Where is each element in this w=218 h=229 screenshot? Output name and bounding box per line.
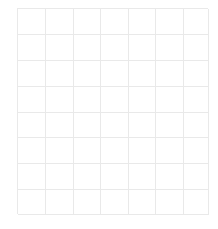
- table-cell[interactable]: [74, 164, 101, 190]
- table-row: [18, 87, 209, 113]
- table-cell[interactable]: [46, 113, 74, 138]
- table-cell[interactable]: [18, 61, 46, 87]
- table-cell[interactable]: [156, 138, 184, 164]
- table-cell[interactable]: [18, 138, 46, 164]
- table-cell[interactable]: [101, 190, 129, 215]
- table-cell[interactable]: [46, 61, 74, 87]
- table-cell[interactable]: [46, 190, 74, 215]
- table-cell[interactable]: [74, 113, 101, 138]
- table-cell[interactable]: [101, 164, 129, 190]
- table-row: [18, 9, 209, 35]
- table-cell[interactable]: [156, 35, 184, 61]
- table-cell[interactable]: [156, 9, 184, 35]
- table-row: [18, 164, 209, 190]
- table-row: [18, 61, 209, 87]
- table-cell[interactable]: [184, 113, 209, 138]
- table-cell[interactable]: [18, 9, 46, 35]
- table-cell[interactable]: [101, 113, 129, 138]
- table-cell[interactable]: [18, 113, 46, 138]
- table-cell[interactable]: [46, 164, 74, 190]
- table-cell[interactable]: [184, 164, 209, 190]
- table-cell[interactable]: [101, 9, 129, 35]
- table-cell[interactable]: [101, 35, 129, 61]
- table-cell[interactable]: [184, 9, 209, 35]
- table-cell[interactable]: [74, 87, 101, 113]
- table-cell[interactable]: [101, 61, 129, 87]
- empty-grid-table[interactable]: [17, 8, 208, 214]
- table-cell[interactable]: [129, 138, 156, 164]
- table-cell[interactable]: [129, 61, 156, 87]
- table-cell[interactable]: [74, 138, 101, 164]
- table-cell[interactable]: [129, 164, 156, 190]
- table-row: [18, 35, 209, 61]
- table-cell[interactable]: [18, 35, 46, 61]
- table-cell[interactable]: [184, 138, 209, 164]
- page-canvas: [0, 0, 218, 229]
- table-cell[interactable]: [156, 87, 184, 113]
- table-cell[interactable]: [46, 9, 74, 35]
- table-cell[interactable]: [74, 190, 101, 215]
- table-cell[interactable]: [74, 35, 101, 61]
- table-cell[interactable]: [46, 138, 74, 164]
- table-cell[interactable]: [184, 87, 209, 113]
- table-cell[interactable]: [129, 113, 156, 138]
- table-cell[interactable]: [46, 35, 74, 61]
- table-cell[interactable]: [18, 164, 46, 190]
- table-cell[interactable]: [74, 9, 101, 35]
- table-cell[interactable]: [129, 190, 156, 215]
- table-cell[interactable]: [46, 87, 74, 113]
- table-cell[interactable]: [156, 113, 184, 138]
- table-cell[interactable]: [184, 190, 209, 215]
- table-cell[interactable]: [129, 35, 156, 61]
- table-cell[interactable]: [129, 9, 156, 35]
- table-row: [18, 138, 209, 164]
- table-cell[interactable]: [74, 61, 101, 87]
- table-row: [18, 113, 209, 138]
- table-cell[interactable]: [18, 87, 46, 113]
- table-cell[interactable]: [184, 35, 209, 61]
- table-cell[interactable]: [184, 61, 209, 87]
- table-cell[interactable]: [101, 138, 129, 164]
- table-row: [18, 190, 209, 215]
- table-cell[interactable]: [101, 87, 129, 113]
- table-cell[interactable]: [156, 164, 184, 190]
- table-cell[interactable]: [18, 190, 46, 215]
- table-cell[interactable]: [129, 87, 156, 113]
- table-cell[interactable]: [156, 190, 184, 215]
- table-cell[interactable]: [156, 61, 184, 87]
